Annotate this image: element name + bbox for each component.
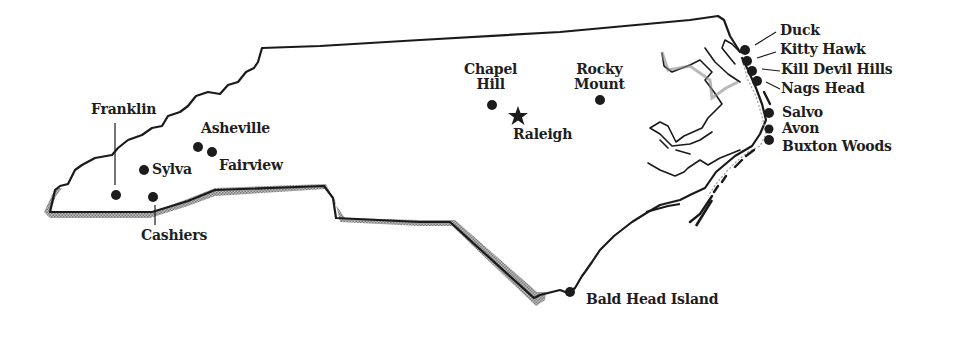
dot-marker-icon[interactable] [565, 287, 575, 297]
star-icon[interactable] [508, 106, 528, 125]
leader-line-kill-devil-hills [762, 69, 780, 71]
dot-marker-icon[interactable] [764, 135, 774, 145]
label-kitty-hawk: Kitty Hawk [780, 42, 865, 57]
label-avon: Avon [782, 121, 819, 136]
albemarle-sound [662, 52, 738, 98]
dot-marker-icon[interactable] [595, 95, 605, 105]
label-chapel-hill-line2: Hill [464, 77, 517, 92]
dot-marker-icon[interactable] [148, 192, 158, 202]
label-chapel-hill-line1: Chapel [464, 62, 517, 77]
outer-banks-islands [690, 92, 770, 222]
dot-marker-icon[interactable] [487, 100, 497, 110]
dot-marker-icon[interactable] [752, 76, 762, 86]
label-franklin: Franklin [91, 102, 156, 117]
label-salvo: Salvo [782, 105, 823, 120]
dot-marker-icon[interactable] [111, 190, 121, 200]
label-buxton-woods: Buxton Woods [782, 139, 892, 154]
label-asheville: Asheville [201, 121, 270, 136]
dot-marker-icon[interactable] [740, 45, 750, 55]
label-raleigh: Raleigh [513, 127, 572, 142]
state-outline [50, 16, 766, 298]
south-border-shadow [44, 184, 546, 306]
label-duck: Duck [780, 23, 820, 38]
pamlico-sound-coastline [648, 40, 740, 176]
cape-lookout [696, 200, 712, 226]
dot-marker-icon[interactable] [747, 66, 757, 76]
label-rocky-mount: Rocky Mount [574, 62, 625, 92]
label-fairview: Fairview [219, 158, 283, 173]
label-bald-head-island: Bald Head Island [586, 292, 718, 307]
label-nags-head: Nags Head [781, 81, 865, 96]
label-kill-devil-hills: Kill Devil Hills [781, 62, 893, 77]
leader-line-nags-head [766, 82, 780, 89]
dot-marker-icon[interactable] [742, 56, 752, 66]
label-rocky-mount-line2: Mount [574, 77, 625, 92]
label-cashiers: Cashiers [141, 228, 207, 243]
label-sylva: Sylva [152, 162, 192, 177]
markers [111, 45, 774, 297]
dot-marker-icon[interactable] [139, 165, 149, 175]
dot-marker-icon[interactable] [764, 108, 774, 118]
dot-marker-icon[interactable] [193, 142, 203, 152]
label-rocky-mount-line1: Rocky [574, 62, 625, 77]
dot-marker-icon[interactable] [765, 125, 774, 134]
dot-marker-icon[interactable] [207, 147, 217, 157]
label-chapel-hill: Chapel Hill [464, 62, 517, 92]
leader-line-kitty-hawk [757, 52, 776, 58]
leader-line-duck [755, 32, 776, 45]
